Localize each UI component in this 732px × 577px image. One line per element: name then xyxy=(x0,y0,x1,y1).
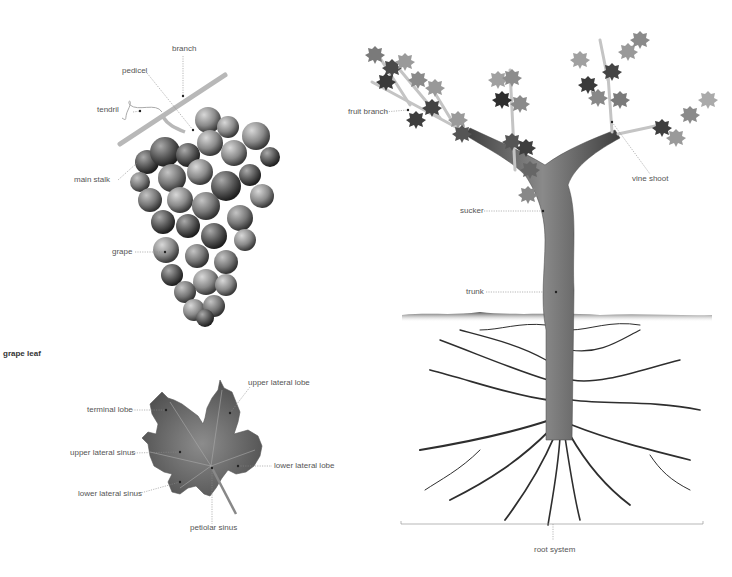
label-lower-lateral-lobe: lower lateral lobe xyxy=(274,461,334,471)
label-sucker: sucker xyxy=(460,206,484,216)
label-trunk: trunk xyxy=(466,287,484,297)
grape-cluster xyxy=(118,56,280,327)
label-upper-lateral-sinus: upper lateral sinus xyxy=(70,448,135,458)
label-fruit-branch: fruit branch xyxy=(348,107,388,117)
label-branch: branch xyxy=(172,44,196,54)
label-root-system: root system xyxy=(534,545,575,555)
label-main-stalk: main stalk xyxy=(74,175,110,185)
label-petiolar-sinus: petiolar sinus xyxy=(190,523,237,533)
label-tendril: tendril xyxy=(97,105,119,115)
root-system-bracket xyxy=(401,521,703,524)
label-lower-lateral-sinus: lower lateral sinus xyxy=(78,489,142,499)
label-vine-shoot: vine shoot xyxy=(632,174,668,184)
label-terminal-lobe: terminal lobe xyxy=(87,405,133,415)
vine-illustration xyxy=(365,31,718,540)
label-upper-lateral-lobe: upper lateral lobe xyxy=(248,378,310,388)
label-pedicel: pedicel xyxy=(122,66,147,76)
label-grape: grape xyxy=(112,247,132,257)
grape-leaf-title: grape leaf xyxy=(3,349,41,358)
grape-leaf-illustration xyxy=(132,380,272,524)
